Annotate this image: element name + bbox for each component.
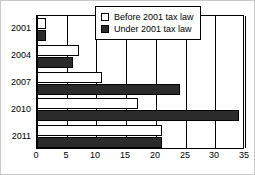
x-axis-labels: 05101520253035 <box>36 151 244 165</box>
x-tick-label-0: 0 <box>33 151 38 160</box>
y-tick-label-2010: 2010 <box>11 104 31 113</box>
bar-2001-before <box>37 18 46 29</box>
bar-2004-under <box>37 57 73 68</box>
filled-square-swatch <box>101 25 109 33</box>
bar-2011-before <box>37 125 162 136</box>
legend-label-before: Before 2001 tax law <box>114 13 194 22</box>
bar-2010-under <box>37 110 239 121</box>
y-tick-label-2011: 2011 <box>12 131 31 140</box>
chart-figure: 20012004200720102011 05101520253035 Befo… <box>0 0 255 175</box>
x-tick-label-10: 10 <box>90 151 100 160</box>
bar-row <box>37 137 245 148</box>
legend-entry-under: Under 2001 tax law <box>101 23 194 35</box>
x-tick-label-25: 25 <box>180 151 190 160</box>
bar-row <box>37 98 245 109</box>
bar-row <box>37 110 245 121</box>
bar-row <box>37 125 245 136</box>
bar-row <box>37 84 245 95</box>
x-tick-label-20: 20 <box>150 151 160 160</box>
bar-row <box>37 45 245 56</box>
bar-2007-under <box>37 84 180 95</box>
gridline <box>245 16 246 148</box>
x-tick-label-30: 30 <box>209 151 219 160</box>
chart-legend: Before 2001 tax law Under 2001 tax law <box>95 6 201 40</box>
bar-2010-before <box>37 98 138 109</box>
legend-entry-before: Before 2001 tax law <box>101 11 194 23</box>
bar-row <box>37 57 245 68</box>
bar-row <box>37 72 245 83</box>
x-tick-label-35: 35 <box>239 151 249 160</box>
bar-2004-before <box>37 45 79 56</box>
x-tick-label-15: 15 <box>120 151 130 160</box>
y-tick-label-2004: 2004 <box>11 51 31 60</box>
x-tick-label-5: 5 <box>63 151 68 160</box>
bar-2001-under <box>37 30 46 41</box>
y-tick-label-2001: 2001 <box>11 24 31 33</box>
legend-label-under: Under 2001 tax law <box>114 25 192 34</box>
open-square-swatch <box>101 13 109 21</box>
bar-2007-before <box>37 72 102 83</box>
bar-2011-under <box>37 137 162 148</box>
y-tick-label-2007: 2007 <box>11 78 31 87</box>
